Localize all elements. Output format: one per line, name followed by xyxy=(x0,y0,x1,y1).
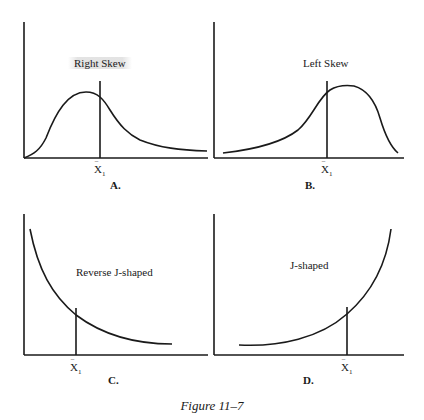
panel-a-mean-label: ‾X1 xyxy=(94,163,105,178)
mean-bar: ‾ xyxy=(71,358,74,368)
mean-subscript: 1 xyxy=(349,368,353,376)
panel-c-title: Reverse J-shaped xyxy=(76,266,153,278)
panel-d-title: J-shaped xyxy=(290,259,329,271)
panel-a-label: A. xyxy=(110,179,121,191)
panel-c-mean-label: ‾X1 xyxy=(70,361,81,376)
panel-b-mean-label: ‾X1 xyxy=(321,163,332,178)
panel-b-curve xyxy=(223,85,398,153)
panel-a-title: Right Skew xyxy=(68,57,132,69)
panel-b-label: B. xyxy=(305,179,315,191)
panel-d-label: D. xyxy=(303,374,314,386)
panel-c-label: C. xyxy=(108,374,119,386)
panel-d-curve xyxy=(239,229,391,345)
mean-bar: ‾ xyxy=(95,160,98,170)
panel-a-title-text: Right Skew xyxy=(68,57,132,69)
panel-a-graphics xyxy=(24,22,208,158)
mean-bar: ‾ xyxy=(342,358,345,368)
panel-a-curve xyxy=(24,92,207,158)
panel-c-graphics xyxy=(24,214,208,355)
panel-b-graphics xyxy=(214,22,404,158)
panel-d-graphics xyxy=(214,214,404,355)
panel-d-mean-label: ‾X1 xyxy=(341,361,352,376)
figure-graphics xyxy=(0,0,424,420)
panel-c-curve xyxy=(30,229,172,344)
panel-b-title: Left Skew xyxy=(303,57,349,69)
mean-subscript: 1 xyxy=(329,170,333,178)
mean-subscript: 1 xyxy=(78,368,82,376)
mean-subscript: 1 xyxy=(102,170,106,178)
mean-bar: ‾ xyxy=(322,160,325,170)
figure-caption: Figure 11–7 xyxy=(0,398,424,414)
